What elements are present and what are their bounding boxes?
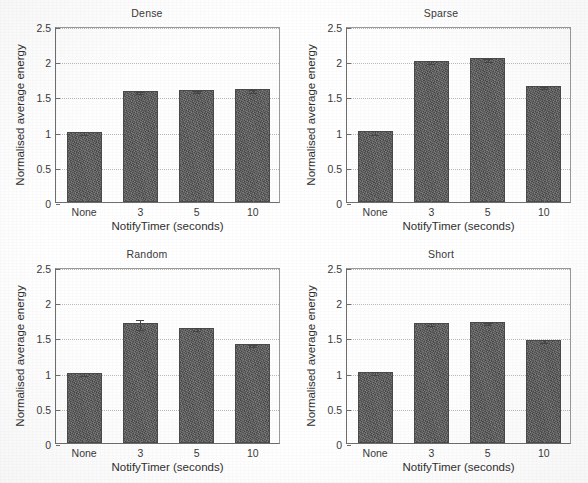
- y-tick-label: 1: [45, 369, 56, 381]
- y-tick-mark: [347, 410, 351, 411]
- y-gridline: [56, 28, 279, 29]
- y-axis-label: Normalised average energy: [304, 44, 316, 185]
- y-tick-label: 1: [336, 128, 347, 140]
- y-tick-mark: [56, 269, 60, 270]
- subplot-title: Random: [0, 248, 294, 260]
- y-tick-mark: [347, 204, 351, 205]
- y-tick-mark: [347, 375, 351, 376]
- y-gridline: [347, 63, 570, 64]
- y-tick-mark: [56, 98, 60, 99]
- x-tick-mark: [84, 439, 85, 443]
- y-tick-mark: [347, 98, 351, 99]
- y-tick-mark: [347, 134, 351, 135]
- y-tick-label: 1: [336, 369, 347, 381]
- y-gridline: [56, 269, 279, 270]
- subplot-short: Short00.511.522.5None3510NotifyTimer (se…: [294, 242, 588, 483]
- plot-area: 00.511.522.5None3510NotifyTimer (seconds…: [55, 268, 280, 444]
- error-bar-cap: [249, 345, 257, 346]
- bar: [358, 372, 393, 443]
- error-bar-cap: [80, 135, 88, 136]
- error-bar: [140, 320, 141, 330]
- y-tick-mark: [56, 63, 60, 64]
- y-tick-label: 0.5: [327, 163, 347, 175]
- x-tick-mark: [431, 198, 432, 202]
- x-tick-label: 5: [485, 206, 491, 218]
- y-tick-mark: [347, 169, 351, 170]
- x-tick-mark: [488, 198, 489, 202]
- subplot-title: Dense: [0, 7, 294, 19]
- error-bar-cap: [540, 340, 548, 341]
- y-tick-label: 0: [336, 198, 347, 210]
- error-bar-cap: [371, 131, 379, 132]
- error-bar-cap: [193, 91, 201, 92]
- error-bar-cap: [80, 376, 88, 377]
- y-tick-label: 2: [45, 298, 56, 310]
- bar: [235, 89, 270, 202]
- bar: [526, 340, 561, 443]
- y-tick-label: 1.5: [327, 92, 347, 104]
- error-bar-cap: [136, 320, 144, 321]
- y-tick-label: 2: [336, 57, 347, 69]
- y-tick-mark: [56, 304, 60, 305]
- y-tick-label: 1: [45, 128, 56, 140]
- x-tick-label: 5: [485, 447, 491, 459]
- plot-area: 00.511.522.5None3510NotifyTimer (seconds…: [346, 268, 571, 444]
- x-axis-label: NotifyTimer (seconds): [111, 461, 223, 473]
- error-bar-cap: [249, 90, 257, 91]
- bar: [67, 373, 102, 443]
- y-gridline: [347, 269, 570, 270]
- y-tick-mark: [56, 410, 60, 411]
- y-tick-label: 1.5: [36, 333, 56, 345]
- y-tick-label: 2.5: [36, 263, 56, 275]
- bar: [358, 131, 393, 202]
- error-bar-cap: [193, 93, 201, 94]
- x-tick-mark: [544, 439, 545, 443]
- y-tick-mark: [56, 204, 60, 205]
- y-tick-label: 0.5: [36, 404, 56, 416]
- x-tick-label: 3: [428, 206, 434, 218]
- error-bar-cap: [540, 89, 548, 90]
- x-axis-label: NotifyTimer (seconds): [111, 220, 223, 232]
- error-bar-cap: [136, 92, 144, 93]
- bar: [470, 322, 505, 443]
- y-tick-label: 0.5: [36, 163, 56, 175]
- x-axis-label: NotifyTimer (seconds): [402, 220, 514, 232]
- x-tick-label: 3: [137, 206, 143, 218]
- subplot-dense: Dense00.511.522.5None3510NotifyTimer (se…: [0, 0, 294, 242]
- y-axis-label: Normalised average energy: [13, 44, 25, 185]
- error-bar-cap: [371, 372, 379, 373]
- x-tick-label: 10: [247, 206, 259, 218]
- bar: [235, 344, 270, 443]
- x-axis-label: NotifyTimer (seconds): [402, 461, 514, 473]
- y-gridline: [347, 28, 570, 29]
- subplot-random: Random00.511.522.5None3510NotifyTimer (s…: [0, 242, 294, 483]
- y-tick-mark: [56, 28, 60, 29]
- bar: [179, 328, 214, 443]
- y-tick-mark: [347, 445, 351, 446]
- y-tick-label: 2.5: [327, 22, 347, 34]
- bar: [179, 90, 214, 202]
- error-bar-cap: [136, 94, 144, 95]
- y-gridline: [347, 304, 570, 305]
- y-axis-label: Normalised average energy: [13, 285, 25, 426]
- error-bar-cap: [371, 375, 379, 376]
- error-bar-cap: [427, 326, 435, 327]
- subplot-title: Short: [294, 248, 588, 260]
- y-axis-label: Normalised average energy: [304, 285, 316, 426]
- bar: [67, 132, 102, 202]
- bar: [414, 323, 449, 443]
- y-tick-label: 0.5: [327, 404, 347, 416]
- plot-area: 00.511.522.5None3510NotifyTimer (seconds…: [346, 27, 571, 203]
- y-tick-label: 2: [45, 57, 56, 69]
- error-bar-cap: [193, 331, 201, 332]
- figure-panel-grid: Dense00.511.522.5None3510NotifyTimer (se…: [0, 0, 588, 483]
- error-bar-cap: [371, 135, 379, 136]
- y-tick-mark: [56, 339, 60, 340]
- x-tick-mark: [84, 198, 85, 202]
- bar: [414, 61, 449, 203]
- y-tick-mark: [347, 339, 351, 340]
- y-tick-mark: [347, 63, 351, 64]
- x-tick-label: 3: [137, 447, 143, 459]
- subplot-sparse: Sparse00.511.522.5None3510NotifyTimer (s…: [294, 0, 588, 242]
- y-tick-label: 0: [45, 198, 56, 210]
